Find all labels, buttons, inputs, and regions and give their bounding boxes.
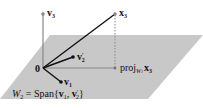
v2-prime-label: v′2 (77, 50, 85, 65)
x3-endpoint (113, 12, 117, 16)
plane-label-eq: = Span{ (23, 88, 58, 99)
x3-label: x3 (119, 8, 127, 21)
origin-label: 0 (35, 64, 40, 74)
plane-label-close: } (79, 88, 84, 99)
v3-label-sub: 3 (52, 13, 55, 19)
v3-label: v3 (47, 8, 55, 21)
plane-span-label: W2 = Span{v1, v′2} (12, 87, 84, 102)
v2-prime-endpoint (71, 55, 75, 59)
x3-label-sub: 3 (124, 13, 127, 19)
projection-label: projW1x3 (120, 63, 152, 77)
v1-endpoint (59, 80, 63, 84)
v2-prime-label-sub: 2 (82, 57, 85, 63)
proj-sub-w-index: 1 (141, 69, 143, 74)
proj-x-sub: 3 (149, 68, 152, 74)
proj-text: proj (120, 62, 136, 73)
proj-sub-w: W1 (136, 68, 143, 74)
v3-endpoint (41, 12, 45, 16)
origin-label-text: 0 (35, 63, 40, 74)
